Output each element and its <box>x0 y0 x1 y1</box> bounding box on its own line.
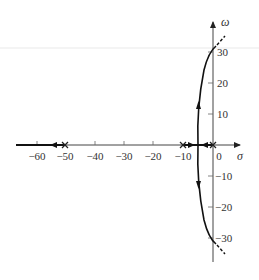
x-tick-label: −50 <box>56 150 74 162</box>
x-tick-label: −10 <box>174 150 192 162</box>
arrow-left-icon <box>50 142 57 148</box>
x-tick-label: −60 <box>28 150 46 162</box>
x-tick-label: −30 <box>115 150 133 162</box>
arrow-up-icon <box>196 101 201 109</box>
x-tick-labels: −60 −50 −40 −30 −20 −10 0 <box>28 150 222 162</box>
arrow-left-icon <box>201 142 208 148</box>
x-axis-label: σ <box>237 149 244 163</box>
y-tick-label: −10 <box>215 170 233 182</box>
root-locus-plot: −60 −50 −40 −30 −20 −10 0 σ 30 20 10 −10… <box>0 0 259 280</box>
x-tick-label: 0 <box>216 150 222 162</box>
y-tick-label: −30 <box>215 232 233 244</box>
y-tick-label: 10 <box>217 108 229 120</box>
arrow-down-icon <box>196 181 201 189</box>
arrow-right-icon <box>188 142 195 148</box>
y-tick-label: 30 <box>217 46 229 58</box>
y-axis-label: ω <box>221 15 229 29</box>
y-tick-label: 20 <box>217 77 229 89</box>
x-tick-label: −20 <box>144 150 162 162</box>
y-tick-label: −20 <box>215 201 233 213</box>
x-tick-label: −40 <box>86 150 104 162</box>
